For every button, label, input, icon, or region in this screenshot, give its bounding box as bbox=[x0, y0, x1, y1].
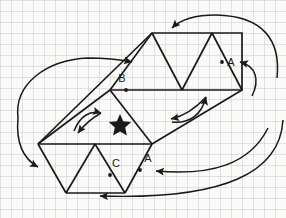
arrow-bottom-long bbox=[100, 120, 283, 196]
arrow-small-left-down bbox=[78, 113, 101, 133]
arrow-top-right-inward bbox=[172, 15, 278, 78]
label-b-dot bbox=[124, 88, 128, 92]
label-a-right: A bbox=[227, 56, 235, 68]
arrow-small-right-up bbox=[172, 97, 206, 122]
figure-canvas: B A C A bbox=[0, 0, 286, 218]
arrow-right-to-a-bottom bbox=[156, 128, 268, 172]
label-a-right-dot bbox=[220, 60, 224, 64]
star-marker bbox=[109, 114, 131, 136]
label-c: C bbox=[112, 157, 120, 169]
label-b: B bbox=[118, 72, 125, 84]
fold-arrows bbox=[18, 15, 283, 196]
label-c-dot bbox=[108, 173, 112, 177]
label-a-bottom-dot bbox=[138, 168, 142, 172]
arrow-left-long-down bbox=[18, 118, 38, 167]
triangle-net-diagram: B A C A bbox=[0, 0, 286, 218]
net-labels: B A C A bbox=[108, 56, 235, 177]
label-a-bottom: A bbox=[144, 152, 152, 164]
